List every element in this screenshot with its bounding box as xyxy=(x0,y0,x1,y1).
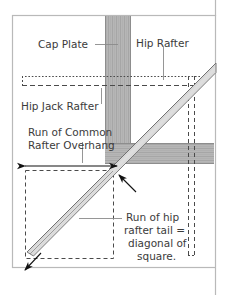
run-common-label-line2: Rafter Overhang xyxy=(28,139,115,151)
run-hip-label-line1: Run of hip xyxy=(126,211,180,223)
hip-rafter-label: Hip Rafter xyxy=(136,37,189,49)
run-common-label-line1: Run of Common xyxy=(28,126,112,138)
run-hip-label-line2: rafter tail = xyxy=(124,224,185,236)
cap-plate-label: Cap Plate xyxy=(38,38,88,50)
run-hip-label-line4: square. xyxy=(137,250,176,262)
hip-rafter-diagram: Cap Plate Hip Rafter Hip Jack Rafter Run… xyxy=(0,0,234,295)
hip-jack-rafter-label: Hip Jack Rafter xyxy=(21,100,99,112)
run-hip-label-line3: diagonal of xyxy=(128,237,187,249)
